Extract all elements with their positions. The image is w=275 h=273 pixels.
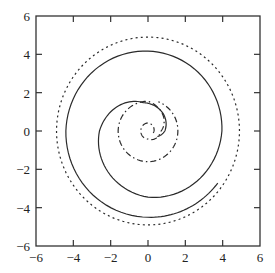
x-tick-label: 4	[219, 250, 226, 265]
plot-curves	[57, 37, 240, 225]
y-tick-label: 2	[24, 86, 31, 101]
x-tick-label: 6	[257, 250, 264, 265]
x-axis-tick-labels: −6−4−20246	[29, 250, 264, 265]
y-tick-label: 0	[24, 124, 31, 139]
y-tick-label: 6	[24, 9, 31, 24]
y-tick-label: −6	[16, 239, 30, 254]
y-tick-label: −4	[16, 201, 30, 216]
x-tick-label: 0	[145, 250, 152, 265]
x-tick-label: −4	[66, 250, 80, 265]
x-tick-label: 2	[182, 250, 189, 265]
y-tick-label: 4	[24, 47, 31, 62]
solid-spiral-curve	[66, 51, 222, 217]
spiral-plot: −6−4−20246 −6−4−20246	[0, 0, 275, 273]
y-axis-tick-labels: −6−4−20246	[16, 9, 30, 254]
y-tick-label: −2	[16, 162, 30, 177]
x-tick-label: −6	[29, 250, 43, 265]
x-tick-label: −2	[104, 250, 118, 265]
dashdot-spiral-curve	[118, 101, 178, 161]
